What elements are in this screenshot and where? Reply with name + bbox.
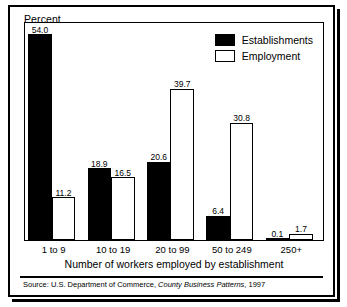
bar-group: 54.011.2 [25, 23, 84, 240]
bar-group: 18.916.5 [84, 23, 143, 240]
bar-value-label: 18.9 [91, 159, 108, 169]
bar-value-label: 0.1 [271, 229, 283, 239]
bar-value-label: 54.0 [32, 25, 49, 35]
bar-employment: 16.5 [111, 177, 135, 240]
bar-employment: 30.8 [230, 123, 254, 240]
bar-establishments: 54.0 [28, 34, 52, 240]
source-divider [20, 276, 323, 278]
chart-legend: Establishments Employment [215, 34, 313, 66]
x-tick-label: 250+ [262, 243, 321, 256]
legend-item-employment: Employment [215, 50, 313, 62]
bar-value-label: 16.5 [115, 168, 132, 178]
legend-label-establishments: Establishments [242, 34, 313, 46]
bar-establishments: 20.6 [147, 162, 171, 240]
x-tick-label: 50 to 249 [202, 243, 261, 256]
bar-employment: 1.7 [289, 234, 313, 240]
bar-group: 20.639.7 [144, 23, 203, 240]
legend-swatch-establishments-icon [215, 34, 235, 46]
bar-establishments: 6.4 [206, 216, 230, 240]
source-prefix: Source: U.S. Department of Commerce, [23, 280, 158, 289]
bar-establishments: 0.1 [266, 238, 290, 240]
x-axis-tick-labels: 1 to 910 to 1920 to 9950 to 249250+ [24, 243, 324, 257]
source-note: Source: U.S. Department of Commerce, Cou… [23, 279, 265, 290]
bar-value-label: 39.7 [174, 79, 191, 89]
figure-shadow-bottom [12, 299, 340, 302]
bar-value-label: 6.4 [212, 206, 224, 216]
legend-label-employment: Employment [242, 50, 300, 62]
bar-value-label: 20.6 [150, 152, 167, 162]
legend-swatch-employment-icon [215, 50, 235, 62]
legend-item-establishments: Establishments [215, 34, 313, 46]
source-publication: County Business Patterns [158, 280, 244, 289]
bar-value-label: 11.2 [55, 188, 71, 198]
bar-employment: 39.7 [170, 89, 194, 240]
plot-frame: 54.011.218.916.520.639.76.430.80.11.7 Es… [24, 22, 324, 241]
x-tick-label: 10 to 19 [83, 243, 142, 256]
bar-value-label: 30.8 [233, 113, 250, 123]
figure-shadow-right [337, 9, 340, 301]
bar-employment: 11.2 [52, 197, 76, 240]
figure-panel: Percent 54.011.218.916.520.639.76.430.80… [8, 5, 335, 297]
x-tick-label: 20 to 99 [143, 243, 202, 256]
bar-value-label: 1.7 [295, 224, 307, 234]
x-axis-label: Number of workers employed by establishm… [24, 258, 324, 271]
x-tick-label: 1 to 9 [24, 243, 83, 256]
source-suffix: , 1997 [244, 280, 265, 289]
bar-establishments: 18.9 [88, 168, 112, 240]
